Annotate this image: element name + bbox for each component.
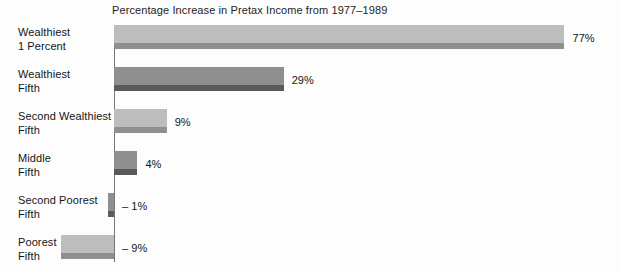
category-label-line1: Wealthiest [18,26,70,38]
chart-row: Second PoorestFifth– 1% [0,185,620,225]
category-label-line2: 1 Percent [18,39,112,53]
bar-body [114,109,167,127]
bar-value-label: 29% [292,73,314,87]
category-label-line2: Fifth [18,81,112,95]
category-label-line2: Fifth [18,165,112,179]
category-label: Wealthiest1 Percent [18,25,112,53]
chart-row: MiddleFifth4% [0,143,620,183]
category-label-line1: Second Wealthiest [18,110,111,122]
category-label: Second PoorestFifth [18,193,112,221]
bar-value-label: 9% [175,115,191,129]
category-label-line1: Poorest [18,236,57,248]
bar-shadow-edge [108,211,114,217]
bar-chart: Percentage Increase in Pretax Income fro… [0,0,620,272]
chart-row: PoorestFifth– 9% [0,227,620,267]
bar-value-label: 4% [145,157,161,171]
bar-body [61,235,114,253]
bar-value-label: 77% [572,31,594,45]
category-label: MiddleFifth [18,151,112,179]
bar-shadow-edge [114,85,284,91]
bar-body [114,67,284,85]
category-label-line2: Fifth [18,123,112,137]
bar-body [108,193,114,211]
bar-value-label: – 1% [122,199,147,213]
chart-row: WealthiestFifth29% [0,59,620,99]
category-label-line1: Middle [18,152,51,164]
category-label-line1: Wealthiest [18,68,70,80]
category-label: Second WealthiestFifth [18,109,112,137]
bar[interactable] [61,235,114,261]
bar-shadow-edge [114,43,564,49]
chart-row: Second WealthiestFifth9% [0,101,620,141]
category-label: WealthiestFifth [18,67,112,95]
bar-shadow-edge [114,169,137,175]
bar-shadow-edge [61,253,114,259]
bar[interactable] [114,151,137,177]
bar[interactable] [114,67,284,93]
bar[interactable] [108,193,114,219]
category-label-line2: Fifth [18,207,112,221]
bar-body [114,151,137,169]
category-label-line1: Second Poorest [18,194,98,206]
bar-shadow-edge [114,127,167,133]
plot-area: Wealthiest1 Percent77%WealthiestFifth29%… [0,0,620,272]
bar-body [114,25,564,43]
bar[interactable] [114,25,564,51]
bar-value-label: – 9% [122,241,147,255]
bar[interactable] [114,109,167,135]
chart-row: Wealthiest1 Percent77% [0,17,620,57]
